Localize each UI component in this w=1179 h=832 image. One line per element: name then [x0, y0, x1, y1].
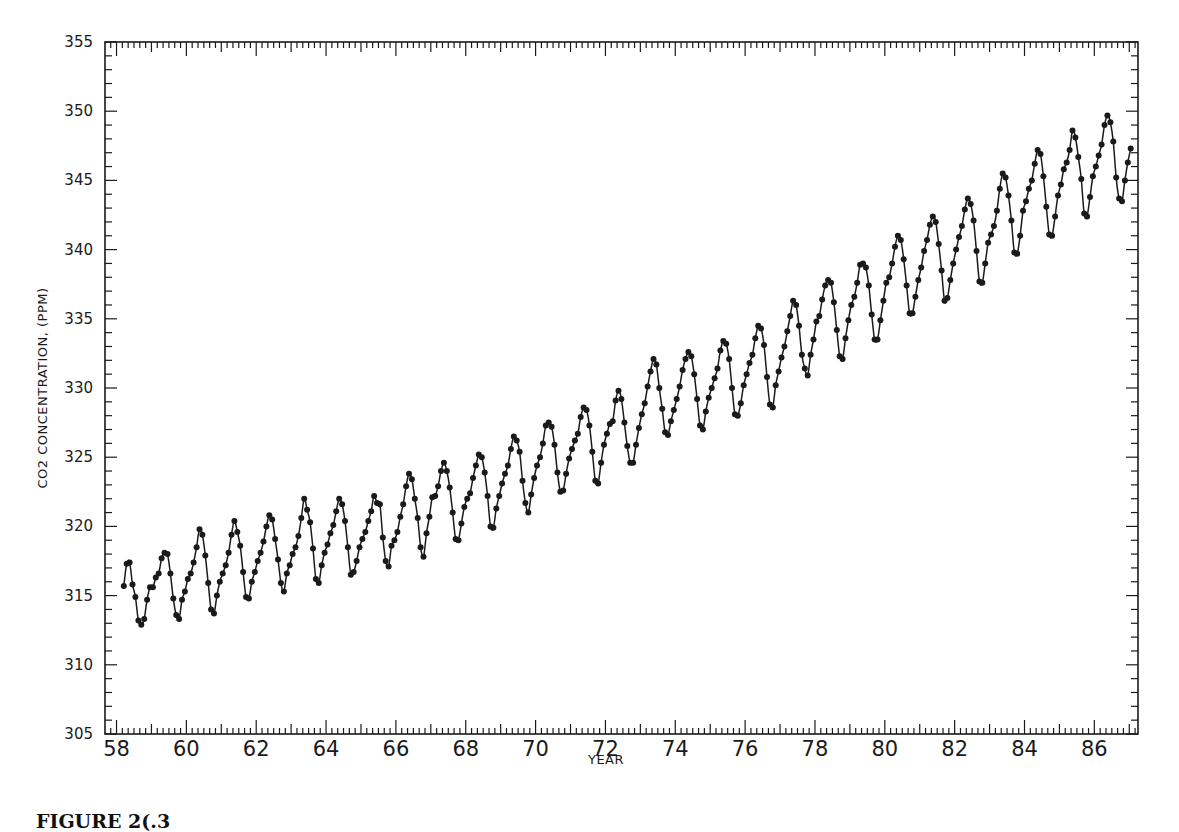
data-point [249, 579, 255, 585]
data-point [150, 584, 156, 590]
data-point [400, 501, 406, 507]
data-point [706, 395, 712, 401]
x-tick-label: 66 [383, 737, 410, 761]
data-point [1110, 139, 1116, 145]
data-point [956, 234, 962, 240]
data-point [287, 562, 293, 568]
data-point [552, 442, 558, 448]
data-point [965, 195, 971, 201]
data-point [470, 475, 476, 481]
data-point [284, 571, 290, 577]
data-point [194, 544, 200, 550]
data-point [656, 385, 662, 391]
x-tick-label: 64 [313, 737, 340, 761]
data-point [665, 432, 671, 438]
data-point [496, 493, 502, 499]
data-point [808, 352, 814, 358]
data-point [202, 553, 208, 559]
data-point [211, 611, 217, 617]
data-point [781, 344, 787, 350]
data-point [304, 507, 310, 513]
data-point [575, 431, 581, 437]
y-tick-label: 315 [64, 587, 93, 605]
x-tick-label: 58 [103, 737, 130, 761]
data-point [458, 521, 464, 527]
data-point [816, 313, 822, 319]
data-point [310, 546, 316, 552]
data-point [1093, 164, 1099, 170]
data-point [712, 375, 718, 381]
data-point [127, 559, 133, 565]
data-point [735, 413, 741, 419]
data-point [1043, 204, 1049, 210]
data-point [613, 398, 619, 404]
data-point [432, 493, 438, 499]
data-point [845, 317, 851, 323]
data-point [415, 515, 421, 521]
data-point [485, 493, 491, 499]
data-point [761, 342, 767, 348]
data-point [188, 571, 194, 577]
data-point [508, 446, 514, 452]
data-point [793, 302, 799, 308]
data-point [479, 454, 485, 460]
data-point [659, 406, 665, 412]
data-point [307, 519, 313, 525]
data-point [391, 537, 397, 543]
data-point [514, 438, 520, 444]
data-point [648, 368, 654, 374]
data-point [295, 533, 301, 539]
x-tick-label: 68 [452, 737, 479, 761]
data-point [927, 222, 933, 228]
data-point [412, 496, 418, 502]
data-point [863, 265, 869, 271]
data-point [141, 616, 147, 622]
data-point [921, 248, 927, 254]
x-tick-label: 86 [1081, 737, 1108, 761]
y-tick-label: 330 [64, 379, 93, 397]
data-point [1090, 173, 1096, 179]
data-point [176, 616, 182, 622]
data-point [764, 374, 770, 380]
data-point [572, 438, 578, 444]
data-point [729, 385, 735, 391]
data-point [359, 536, 365, 542]
data-point [144, 597, 150, 603]
data-point [456, 537, 462, 543]
data-point [461, 504, 467, 510]
data-point [293, 544, 299, 550]
data-point [939, 267, 945, 273]
data-point [327, 530, 333, 536]
data-point [901, 256, 907, 262]
data-point [1040, 173, 1046, 179]
y-axis-tick-labels: 305310315320325330335340345350355 [64, 33, 93, 743]
data-point [892, 244, 898, 250]
data-point [630, 460, 636, 466]
data-point [278, 580, 284, 586]
data-point [898, 237, 904, 243]
data-point [531, 475, 537, 481]
data-point [1102, 122, 1108, 128]
data-point [214, 593, 220, 599]
data-point [290, 551, 296, 557]
data-point [540, 440, 546, 446]
x-tick-label: 84 [1011, 737, 1038, 761]
data-point [639, 411, 645, 417]
x-axis-title: YEAR [587, 752, 624, 767]
data-point [191, 559, 197, 565]
data-point [534, 463, 540, 469]
data-point [205, 580, 211, 586]
data-point [132, 594, 138, 600]
data-point [784, 328, 790, 334]
data-point [1128, 146, 1134, 152]
data-point [397, 514, 403, 520]
data-point [365, 518, 371, 524]
data-point [715, 366, 721, 372]
data-point [674, 396, 680, 402]
data-point [389, 543, 395, 549]
data-point [668, 418, 674, 424]
data-point [281, 588, 287, 594]
data-point [779, 355, 785, 361]
data-point [950, 260, 956, 266]
data-point [1020, 208, 1026, 214]
